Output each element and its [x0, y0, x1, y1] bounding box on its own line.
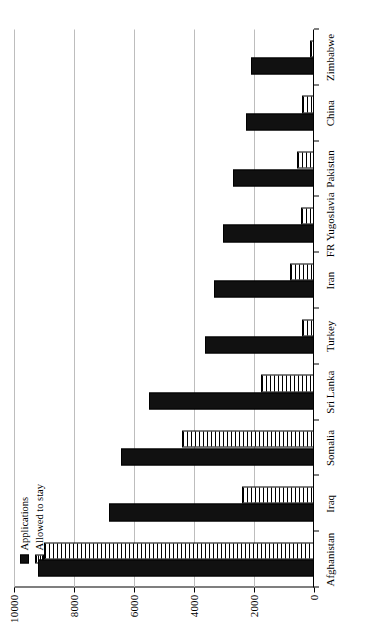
value-tick-label: 0 [308, 594, 320, 600]
bar-applications-pakistan [233, 169, 314, 186]
bar-allowed-to-stay-zimbabwe [310, 40, 314, 57]
bar-allowed-to-stay-pakistan [297, 151, 314, 168]
bar-applications-sri-lanka [149, 392, 314, 409]
category-label-pakistan: Pakistan [324, 150, 336, 187]
bar-allowed-to-stay-iran [290, 263, 314, 280]
category-tick [314, 84, 319, 85]
bar-allowed-to-stay-china [302, 95, 314, 112]
value-tick [314, 587, 315, 592]
gridline [14, 29, 15, 587]
value-tick-label: 2000 [248, 594, 260, 617]
category-label-iran: Iran [324, 271, 336, 289]
bar-applications-iraq [109, 503, 314, 520]
category-tick [314, 28, 319, 29]
value-axis-line [14, 586, 314, 587]
bar-allowed-to-stay-fr-yugoslavia [301, 207, 315, 224]
category-label-china: China [324, 100, 336, 126]
gridline [74, 29, 75, 587]
bar-applications-afghanistan [38, 559, 314, 576]
value-tick [254, 587, 255, 592]
category-label-iraq: Iraq [324, 494, 336, 512]
bar-applications-zimbabwe [251, 57, 314, 74]
category-tick [314, 530, 319, 531]
bar-applications-turkey [205, 336, 314, 353]
category-label-sri-lanka: Sri Lanka [324, 370, 336, 413]
value-tick [134, 587, 135, 592]
value-tick [14, 587, 15, 592]
bar-applications-somalia [121, 448, 314, 465]
category-tick [314, 251, 319, 252]
category-tick [314, 586, 319, 587]
bar-allowed-to-stay-sri-lanka [261, 374, 314, 391]
category-label-somalia: Somalia [324, 429, 336, 465]
bar-applications-iran [214, 280, 314, 297]
category-tick [314, 307, 319, 308]
bar-applications-fr-yugoslavia [223, 224, 314, 241]
bar-allowed-to-stay-iraq [242, 486, 314, 503]
value-tick-label: 8000 [68, 594, 80, 617]
category-tick [314, 195, 319, 196]
plot-area: 0200040006000800010000 AfghanistanIraqSo… [14, 29, 314, 587]
value-tick-label: 4000 [188, 594, 200, 617]
value-tick-label: 6000 [128, 594, 140, 617]
category-tick [314, 474, 319, 475]
bar-allowed-to-stay-turkey [302, 319, 314, 336]
category-tick [314, 363, 319, 364]
category-label-afghanistan: Afghanistan [324, 532, 336, 586]
bar-allowed-to-stay-afghanistan [44, 542, 314, 559]
value-tick [194, 587, 195, 592]
value-tick-label: 10000 [8, 594, 20, 623]
category-label-turkey: Turkey [324, 320, 336, 351]
bar-applications-china [246, 113, 314, 130]
category-label-zimbabwe: Zimbabwe [324, 33, 336, 80]
chart-figure: Applications Allowed to stay 02000400060… [0, 0, 374, 631]
category-tick [314, 419, 319, 420]
chart-rotated-canvas: Applications Allowed to stay 02000400060… [0, 0, 374, 631]
category-tick [314, 140, 319, 141]
category-label-fr-yugoslavia: FR Yugoslavia [324, 192, 336, 257]
bar-allowed-to-stay-somalia [182, 430, 314, 447]
value-tick [74, 587, 75, 592]
